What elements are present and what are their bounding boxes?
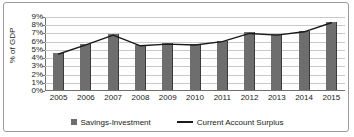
square-swatch-icon	[71, 119, 77, 125]
legend-item-savings-investment: Savings-Investment	[71, 118, 151, 127]
chart-legend: Savings-Investment Current Account Surpl…	[4, 115, 350, 129]
legend-label-current-account-surplus: Current Account Surplus	[197, 118, 284, 127]
y-axis-tick-label: 0%	[21, 87, 43, 95]
chart-frame: % of GDP 9%8%7%6%5%4%3%2%1%0% 2005200620…	[3, 2, 349, 132]
x-axis-tick-label: 2009	[153, 93, 183, 102]
line-series-current-account-surplus	[45, 17, 345, 91]
y-axis-title: % of GDP	[8, 16, 17, 76]
y-axis-tick	[42, 91, 45, 92]
x-axis-tick-labels: 2005200620072008200920102011201220132014…	[45, 93, 345, 105]
y-axis-title-wrap: % of GDP	[4, 17, 18, 91]
legend-item-current-account-surplus: Current Account Surplus	[177, 118, 284, 127]
x-axis-tick-label: 2005	[44, 93, 74, 102]
x-axis-tick-label: 2010	[180, 93, 210, 102]
y-axis-tick-labels: 9%8%7%6%5%4%3%2%1%0%	[19, 17, 43, 91]
legend-label-savings-investment: Savings-Investment	[81, 118, 151, 127]
x-axis-tick-label: 2014	[289, 93, 319, 102]
x-axis-tick-label: 2013	[262, 93, 292, 102]
x-axis-tick-label: 2006	[71, 93, 101, 102]
line-swatch-icon	[177, 121, 193, 123]
x-axis-tick-label: 2007	[98, 93, 128, 102]
x-axis-tick-label: 2008	[125, 93, 155, 102]
line-path	[59, 23, 332, 54]
x-axis-tick-label: 2012	[235, 93, 265, 102]
plot-area	[45, 17, 345, 91]
x-axis-tick-label: 2011	[207, 93, 237, 102]
x-axis-tick-label: 2015	[316, 93, 346, 102]
